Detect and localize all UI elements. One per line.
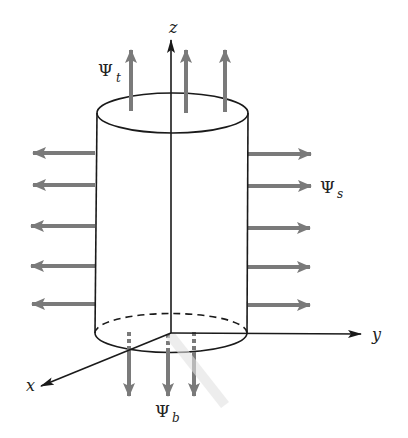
cylinder-diagram: z y x Ψ t Ψ s Ψ b	[0, 0, 408, 438]
cylinder-left-edge	[95, 113, 97, 333]
left-side-flux-arrows	[31, 153, 95, 304]
svg-text:Ψ: Ψ	[98, 60, 113, 80]
flux-label-side: Ψ s	[320, 177, 343, 201]
z-axis-label: z	[168, 18, 178, 37]
svg-text:Ψ: Ψ	[320, 177, 335, 197]
y-axis	[171, 333, 361, 334]
svg-text:s: s	[337, 187, 343, 201]
right-side-flux-arrows	[248, 154, 311, 305]
coordinate-axes	[41, 40, 361, 386]
top-flux-arrows	[131, 50, 225, 113]
svg-text:b: b	[172, 411, 180, 425]
bottom-flux-arrows	[129, 332, 194, 396]
svg-text:t: t	[116, 71, 121, 85]
x-axis	[41, 333, 171, 386]
flux-label-bottom: Ψ b	[155, 401, 180, 425]
flux-label-top: Ψ t	[98, 60, 121, 85]
x-axis-label: x	[26, 376, 35, 395]
svg-text:Ψ: Ψ	[155, 401, 170, 421]
y-axis-label: y	[371, 325, 382, 344]
cylinder-right-edge	[247, 113, 248, 333]
